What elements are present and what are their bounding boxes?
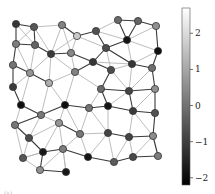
graph-edge (65, 72, 75, 105)
graph-node (92, 27, 99, 34)
graph-node (104, 129, 111, 136)
graph-node (125, 133, 132, 140)
graph-node (25, 134, 32, 141)
graph-node (84, 153, 91, 160)
graph-edge (80, 133, 108, 134)
colorbar-gradient (182, 8, 190, 185)
graph-node (128, 60, 135, 67)
graph-node (154, 152, 161, 159)
graph-node (36, 166, 43, 173)
graph-node (71, 68, 78, 75)
graph-node (152, 22, 159, 29)
graph-node (102, 44, 109, 51)
graph-node (67, 49, 74, 56)
graph-node (59, 145, 66, 152)
graph-edge (77, 36, 106, 48)
graph-edge (93, 62, 132, 64)
graph-node (123, 36, 130, 43)
graph-edge (80, 108, 89, 134)
graph-node (73, 32, 80, 39)
graph-node (61, 101, 68, 108)
graph-node (12, 40, 19, 47)
graph-edge (127, 40, 158, 51)
graph-node (134, 17, 141, 24)
colorbar-tick-label: 1 (195, 64, 201, 74)
graph-node (76, 130, 83, 137)
graph-node (9, 83, 16, 90)
graph-node (97, 85, 104, 92)
graph-node (37, 111, 44, 118)
graph-node (47, 50, 54, 57)
graph-node (149, 132, 156, 139)
graph-node (151, 109, 158, 116)
graph-node (11, 121, 18, 128)
colorbar-tick-label: 0 (195, 101, 201, 111)
figure-caption: (a) ... (4, 189, 20, 194)
graph-node (12, 20, 19, 27)
graph-edge (133, 136, 153, 157)
graph-node (19, 154, 26, 161)
graph-edge (89, 108, 108, 133)
graph-edge (49, 54, 51, 83)
chart-canvas: 210−1−2 (0, 0, 215, 194)
graph-edge (129, 64, 132, 91)
graph-node (30, 23, 37, 30)
graph-node (154, 47, 161, 54)
graph-node (114, 16, 121, 23)
graph-node (17, 101, 24, 108)
graph-node (31, 41, 38, 48)
graph-edge (21, 73, 30, 105)
graph-node (129, 107, 136, 114)
graph-edge (15, 115, 41, 125)
graph-node (58, 21, 65, 28)
graph-edge (133, 111, 153, 136)
graph-edge (49, 83, 65, 105)
graph-edge (111, 70, 129, 91)
graph-node (148, 64, 155, 71)
graph-node (89, 58, 96, 65)
graph-node (9, 61, 16, 68)
graph-node (55, 119, 62, 126)
graph-node (26, 69, 33, 76)
graph-edge (133, 89, 155, 111)
graph-edge (34, 25, 62, 27)
graph-edge (34, 27, 51, 54)
graph-edge (106, 48, 132, 64)
graph-edge (41, 83, 49, 115)
colorbar-tick-label: 2 (195, 28, 201, 38)
graph-edge (108, 133, 114, 162)
colorbar-tick-label: −2 (195, 173, 208, 183)
graph-node (104, 102, 111, 109)
colorbar-tick-label: −1 (195, 137, 208, 147)
graph-edge (16, 44, 30, 73)
graph-edge (62, 25, 71, 53)
graph-node (45, 79, 52, 86)
graph-node (125, 87, 132, 94)
graph-edge (15, 125, 23, 158)
graph-edge (49, 72, 75, 83)
graph-node (110, 158, 117, 165)
colorbar-ticks: 210−1−2 (190, 28, 208, 182)
graph-edge (75, 72, 101, 89)
graph-node (129, 153, 136, 160)
graph-edge (101, 89, 129, 91)
graph-node (85, 104, 92, 111)
graph-node (62, 168, 69, 175)
graph-nodes (9, 16, 161, 175)
graph-edge (129, 68, 152, 91)
graph-node (151, 85, 158, 92)
graph-edge (88, 133, 108, 157)
colorbar: 210−1−2 (182, 8, 208, 185)
graph-node (107, 66, 114, 73)
graph-node (39, 148, 46, 155)
